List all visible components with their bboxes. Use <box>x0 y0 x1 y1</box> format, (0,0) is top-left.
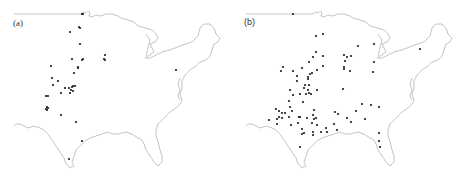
location-point <box>71 58 73 60</box>
location-point <box>316 69 318 71</box>
location-point <box>361 103 363 105</box>
point-layer-b <box>232 0 467 177</box>
location-point <box>299 146 301 148</box>
location-point <box>72 85 74 87</box>
location-point <box>45 108 47 110</box>
location-point <box>296 80 298 82</box>
location-point <box>276 118 278 120</box>
location-point <box>299 116 301 118</box>
location-point <box>69 92 71 94</box>
location-point <box>292 13 294 15</box>
location-point <box>325 127 327 129</box>
location-point <box>292 94 294 96</box>
location-point <box>307 76 309 78</box>
location-point <box>304 84 306 86</box>
location-point <box>315 51 317 53</box>
location-point <box>343 66 345 68</box>
location-point <box>343 68 345 70</box>
location-point <box>291 110 293 112</box>
location-point <box>378 106 380 108</box>
location-point <box>104 59 106 61</box>
location-point <box>68 158 70 160</box>
location-point <box>308 92 310 94</box>
location-point <box>57 80 59 82</box>
location-point <box>282 66 284 68</box>
location-point <box>72 90 74 92</box>
location-point <box>74 85 76 87</box>
location-point <box>350 121 352 123</box>
location-point <box>278 116 280 118</box>
location-point <box>326 131 328 133</box>
location-point <box>45 95 47 97</box>
location-point <box>276 123 278 125</box>
location-point <box>79 43 81 45</box>
location-point <box>47 107 49 109</box>
location-point <box>333 123 335 125</box>
location-point <box>342 88 344 90</box>
location-point <box>288 100 290 102</box>
location-point <box>316 89 318 91</box>
location-point <box>364 118 366 120</box>
location-point <box>307 89 309 91</box>
location-point <box>68 87 70 89</box>
location-point <box>419 48 421 50</box>
location-point <box>73 72 75 74</box>
location-point <box>301 128 303 130</box>
location-point <box>313 118 315 120</box>
location-point <box>289 106 291 108</box>
location-point <box>268 119 270 121</box>
location-point <box>313 109 315 111</box>
location-point <box>357 45 359 47</box>
location-point <box>320 131 322 133</box>
location-point <box>307 78 309 80</box>
location-point <box>370 104 372 106</box>
location-point <box>312 114 314 116</box>
location-point <box>75 121 77 123</box>
map-panel-a: (a) <box>0 0 232 177</box>
location-point <box>315 35 317 37</box>
location-point <box>60 114 62 116</box>
location-point <box>296 75 298 77</box>
location-point <box>301 133 303 135</box>
location-point <box>350 55 352 57</box>
location-point <box>288 116 290 118</box>
location-point <box>355 110 357 112</box>
location-point <box>311 72 313 74</box>
location-point <box>281 112 283 114</box>
location-point <box>309 73 311 75</box>
location-point <box>278 110 280 112</box>
location-point <box>349 70 351 72</box>
location-point <box>312 134 314 136</box>
location-point <box>297 122 299 124</box>
location-point <box>379 146 381 148</box>
location-point <box>378 140 380 142</box>
location-point <box>50 65 52 67</box>
location-point <box>82 58 84 60</box>
location-point <box>322 33 324 35</box>
location-point <box>302 101 304 103</box>
location-point <box>311 122 313 124</box>
location-point <box>70 89 72 91</box>
location-point <box>336 129 338 131</box>
location-point <box>373 61 375 63</box>
location-point <box>346 117 348 119</box>
location-point <box>281 117 283 119</box>
location-point <box>47 95 49 97</box>
location-point <box>303 132 305 134</box>
location-point <box>52 84 54 86</box>
location-point <box>312 56 314 58</box>
location-point <box>337 113 339 115</box>
location-point <box>334 111 336 113</box>
location-point <box>346 56 348 58</box>
location-point <box>275 108 277 110</box>
location-point <box>175 69 177 71</box>
location-point <box>308 61 310 63</box>
location-point <box>310 93 312 95</box>
location-point <box>308 84 310 86</box>
location-point <box>315 117 317 119</box>
location-point <box>289 89 291 91</box>
point-layer-a <box>0 0 232 177</box>
location-point <box>299 93 301 95</box>
location-point <box>322 65 324 67</box>
location-point <box>312 131 314 133</box>
